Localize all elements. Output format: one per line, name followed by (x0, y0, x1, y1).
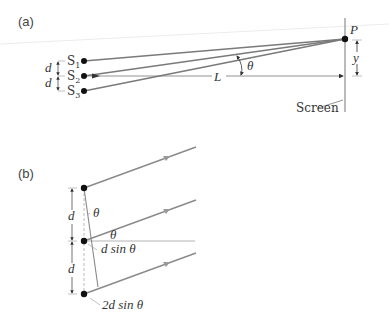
slit-top-dot (81, 185, 87, 191)
perpendicular-line (84, 188, 98, 287)
angle-arc (237, 56, 242, 75)
2dsin-leader (90, 298, 100, 305)
angle-label-1: θ (93, 205, 100, 220)
source-s1-dot (81, 58, 87, 64)
double-slit-diagram: (a) Screen L θ y P S1 S2 S3 (0, 0, 389, 324)
source-s2-dot (81, 73, 87, 79)
spacing-label-2: d (45, 75, 52, 90)
screen-label: Screen (296, 101, 339, 115)
distance-label: L (213, 69, 221, 84)
ray-bottom (84, 253, 196, 294)
spacing-label-1: d (45, 60, 52, 75)
b-spacing-label-1: d (68, 208, 75, 223)
path-diff-2: 2d sin θ (102, 297, 144, 312)
ray-top (84, 147, 196, 188)
panel-b-label: (b) (18, 166, 34, 181)
height-label: y (351, 50, 359, 65)
panel-a: (a) Screen L θ y P S1 S2 S3 (0, 14, 389, 115)
ray-middle (84, 200, 196, 241)
b-spacing-label-2: d (68, 261, 75, 276)
point-p-dot (342, 36, 348, 42)
slit-bottom-dot (81, 291, 87, 297)
angle-label: θ (247, 58, 254, 73)
source-s3-label: S3 (67, 84, 80, 100)
panel-a-label: (a) (18, 14, 34, 29)
path-diff-1: d sin θ (101, 241, 136, 256)
source-s3-dot (81, 88, 87, 94)
angle-label-2: θ (110, 227, 117, 242)
source-s2-label: S2 (67, 69, 80, 85)
panel-b: (b) θ θ d sin θ 2d sin θ d (18, 147, 196, 312)
source-s1-label: S1 (67, 54, 80, 70)
point-p-label: P (349, 22, 358, 37)
slit-middle-dot (81, 238, 87, 244)
